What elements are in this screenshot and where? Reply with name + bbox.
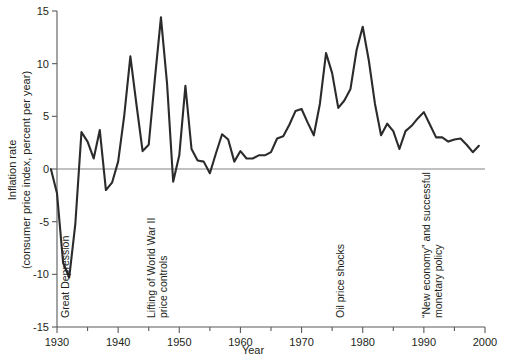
x-tick-label-1930: 1930: [45, 336, 69, 348]
x-tick-label-1940: 1940: [106, 336, 130, 348]
x-axis-tick-labels: 19301940195019601970198019902000: [45, 336, 497, 348]
chart-annotations: Great DepressionLifting of World War IIp…: [59, 172, 444, 318]
y-tick-label-15: 15: [37, 5, 49, 17]
annotation-oil-price-shocks: Oil price shocks: [334, 244, 346, 318]
inflation-line-chart: -15-10-5051015 1930194019501960197019801…: [0, 0, 507, 363]
y-tick-label-10: 10: [37, 58, 49, 70]
series-cpi-inflation-rate: [51, 17, 479, 277]
y-tick-label-0: 0: [43, 163, 49, 175]
y-tick-label--5: -5: [39, 216, 49, 228]
y-axis-title-line1: Inflation rate: [6, 140, 18, 201]
x-tick-label-1990: 1990: [412, 336, 436, 348]
y-axis-tick-labels: -15-10-5051015: [33, 5, 49, 333]
y-tick-label-5: 5: [43, 110, 49, 122]
annotation-wwii-price-controls-line2: price controls: [157, 256, 169, 318]
annotation-new-economy-line1: “New economy” and successful: [420, 172, 432, 318]
x-axis-title: Year: [242, 344, 265, 356]
x-tick-label-1980: 1980: [350, 336, 374, 348]
x-tick-label-1970: 1970: [289, 336, 313, 348]
y-axis-title-line2: (consumer price index, percent per year): [20, 71, 32, 269]
annotation-great-depression: Great Depression: [59, 236, 71, 318]
annotation-wwii-price-controls-line1: Lifting of World War II: [145, 218, 157, 318]
x-tick-label-1950: 1950: [167, 336, 191, 348]
data-series-group: [51, 17, 479, 277]
annotation-new-economy-line2: monetary policy: [432, 244, 444, 318]
y-tick-label--15: -15: [33, 321, 49, 333]
y-tick-label--10: -10: [33, 268, 49, 280]
x-axis-ticks: [57, 327, 485, 333]
chart-figure: -15-10-5051015 1930194019501960197019801…: [0, 0, 507, 363]
y-axis-ticks: [52, 11, 57, 327]
x-tick-label-2000: 2000: [473, 336, 497, 348]
